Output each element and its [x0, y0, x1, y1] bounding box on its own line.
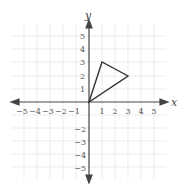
coordinate-plane: x y −5 −4 −3 −2 −1 1 2 3 4 5 5 4 3 2 1 −…	[0, 0, 187, 184]
y-tick: −3	[74, 138, 86, 147]
x-tick: −5	[16, 107, 28, 116]
x-tick: −4	[29, 107, 41, 116]
x-tick: −3	[42, 107, 54, 116]
x-tick: −2	[55, 107, 67, 116]
y-tick: 5	[80, 32, 85, 41]
x-tick: 2	[112, 107, 117, 116]
x-tick: 1	[99, 107, 104, 116]
y-tick: 2	[80, 72, 85, 81]
x-tick-labels: −5 −4 −3 −2 −1 1 2 3 4 5	[16, 107, 156, 116]
triangle	[89, 62, 128, 102]
y-tick: −5	[74, 164, 86, 173]
y-tick: 3	[80, 58, 85, 67]
y-tick: −2	[74, 125, 86, 134]
y-axis-label: y	[84, 9, 92, 22]
x-tick: 4	[138, 107, 143, 116]
x-tick: 3	[125, 107, 130, 116]
x-axis-label: x	[171, 96, 178, 109]
y-tick: 1	[80, 85, 85, 94]
y-tick: 4	[80, 45, 85, 54]
x-tick: −1	[68, 107, 80, 116]
y-tick: −4	[74, 151, 86, 160]
x-tick: 5	[151, 107, 156, 116]
